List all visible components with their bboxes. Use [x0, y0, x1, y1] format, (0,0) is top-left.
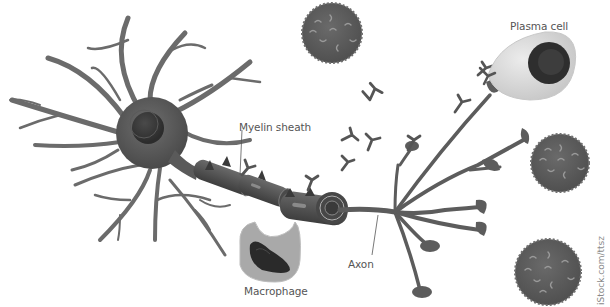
diagram-canvas — [0, 0, 610, 307]
axon-terminals — [405, 80, 529, 298]
image-credit: iStock.com/ttsz — [596, 236, 606, 305]
axon-label: Axon — [348, 258, 374, 270]
axon-hillock — [168, 150, 198, 180]
plasma-cell-label: Plasma cell — [510, 20, 568, 32]
macrophage-label: Macrophage — [244, 285, 308, 297]
myelin-sheath — [191, 156, 350, 227]
myelin-sheath-label: Myelin sheath — [239, 121, 311, 133]
macrophage — [240, 222, 301, 282]
lymphocyte-right-middle — [531, 134, 589, 192]
neuron-immune-diagram: Plasma cell Myelin sheath Axon Macrophag… — [0, 0, 610, 307]
lymphocyte-top — [302, 3, 362, 63]
lymphocyte-right-bottom — [515, 239, 581, 305]
